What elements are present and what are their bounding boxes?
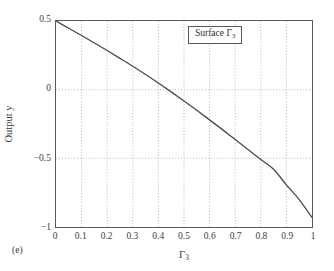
plot-area [55,20,313,228]
x-tick-label: 0.6 [204,232,216,242]
x-tick-label: 0.5 [178,232,190,242]
legend-label-prefix: Surface [195,28,226,38]
legend: Surface Γ3 [188,26,242,44]
legend-label-subscript: 3 [232,32,235,39]
figure-panel: Surface Γ3 Output y Γ3 00.10.20.30.40.50… [0,0,334,271]
x-tick-label: 1 [311,232,316,242]
x-tick-label: 0.9 [281,232,293,242]
y-tick-label: −1 [41,223,51,233]
x-axis-title-subscript: 3 [185,253,189,262]
y-tick-label: 0 [46,85,51,95]
data-curve [56,21,312,227]
x-tick-label: 0.2 [101,232,113,242]
x-tick-label: 0 [53,232,58,242]
panel-caption: (e) [12,245,23,255]
x-axis-title: Γ3 [179,249,189,262]
y-tick-label: −0.5 [34,154,51,164]
x-tick-label: 0.1 [75,232,87,242]
x-tick-label: 0.3 [126,232,138,242]
x-tick-label: 0.8 [255,232,267,242]
x-tick-label: 0.7 [230,232,242,242]
y-axis-title: Output y [3,105,14,142]
y-tick-label: 0.5 [39,15,51,25]
x-tick-label: 0.4 [152,232,164,242]
